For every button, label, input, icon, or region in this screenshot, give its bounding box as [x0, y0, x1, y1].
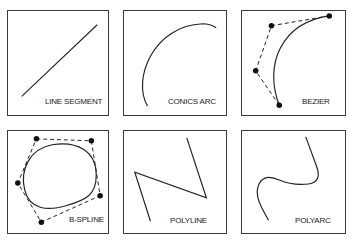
panel-polyline: POLYLINE [123, 130, 227, 234]
control-point-icon [39, 219, 44, 224]
panel-b-spline: B-SPLINE [7, 130, 109, 234]
b-spline-curve [23, 144, 96, 209]
control-point-icon [253, 68, 258, 73]
bezier-control-polygon [256, 16, 330, 105]
control-point-icon [89, 138, 94, 143]
label-b-spline: B-SPLINE [69, 216, 104, 224]
panel-line-segment: LINE SEGMENT [7, 10, 109, 116]
control-point-icon [15, 180, 20, 185]
label-conics-arc: CONICS ARC [168, 98, 216, 106]
panel-polyarc: POLYARC [241, 130, 346, 234]
control-point-icon [327, 13, 332, 18]
control-point-icon [97, 193, 102, 198]
control-point-icon [269, 23, 274, 28]
control-point-icon [277, 102, 282, 107]
b-spline-control-polygon [18, 139, 100, 222]
bezier-curve [274, 16, 330, 105]
label-line-segment: LINE SEGMENT [45, 98, 102, 106]
control-point-icon [34, 136, 39, 141]
label-polyline: POLYLINE [170, 217, 207, 225]
label-polyarc: POLYARC [295, 217, 331, 225]
panel-bezier: BEZIER [241, 10, 346, 116]
panel-conics-arc: CONICS ARC [123, 10, 227, 116]
label-bezier: BEZIER [302, 98, 330, 106]
